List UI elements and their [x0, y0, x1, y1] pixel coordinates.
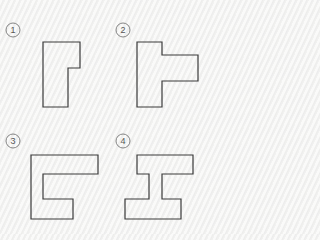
figure-3: 3	[6, 134, 98, 219]
figure-number-label: 3	[10, 136, 15, 146]
figure-1: 1	[6, 23, 80, 107]
t-shape-outline	[137, 42, 198, 107]
shapes-diagram: 1 2 3 4	[0, 0, 220, 234]
l-shape-outline	[43, 42, 80, 107]
i-beam-shape-outline	[125, 155, 193, 219]
figure-number-label: 2	[120, 25, 125, 35]
c-shape-outline	[31, 155, 98, 219]
figure-2: 2	[116, 23, 198, 107]
figure-number-label: 4	[120, 136, 125, 146]
figure-number-label: 1	[10, 25, 15, 35]
figure-4: 4	[116, 134, 193, 219]
